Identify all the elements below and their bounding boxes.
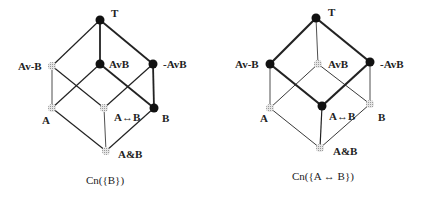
node-a-or-not-b <box>48 62 56 70</box>
node-a-or-b <box>96 60 105 69</box>
label-a-or-b: AvB <box>328 58 349 70</box>
node-a <box>266 104 274 112</box>
label-not-a-or-b: -AvB <box>163 58 187 70</box>
label-a-or-not-b: Av-B <box>18 60 42 72</box>
node-top <box>312 14 321 23</box>
label-a-or-not-b: Av-B <box>235 58 259 70</box>
node-b <box>366 100 374 108</box>
caption-cn-a-iff-b: Cn({A ↔ B}) <box>292 170 354 183</box>
caption-cn-b: Cn({B}) <box>86 174 124 187</box>
label-a-and-b: A&B <box>118 148 143 160</box>
node-a-or-b <box>314 60 322 68</box>
node-not-a-or-b <box>149 60 158 69</box>
node-a-iff-b <box>100 104 108 112</box>
node-not-a-or-b <box>366 58 375 67</box>
label-a: A <box>42 114 50 126</box>
lattice-diagrams: T Av-B AvB -AvB A A↔B B A&B Cn({B}) <box>0 0 421 200</box>
label-not-a-or-b: -AvB <box>380 58 404 70</box>
label-top: T <box>111 7 119 19</box>
node-a-iff-b <box>318 102 327 111</box>
node-a-or-not-b <box>266 60 275 69</box>
label-a-and-b: A&B <box>333 145 358 157</box>
label-a-or-b: AvB <box>109 58 130 70</box>
label-top: T <box>328 6 336 18</box>
node-a-and-b <box>316 144 324 152</box>
label-a-iff-b: A↔B <box>329 110 356 122</box>
label-a-iff-b: A↔B <box>114 111 141 123</box>
label-b: B <box>378 111 386 123</box>
node-a-and-b <box>102 147 110 155</box>
node-top <box>96 16 105 25</box>
node-a <box>48 104 56 112</box>
diagram-cn-b: T Av-B AvB -AvB A A↔B B A&B Cn({B}) <box>18 7 187 187</box>
label-a: A <box>260 112 268 124</box>
node-b <box>150 104 159 113</box>
diagram-cn-a-iff-b: T Av-B AvB -AvB A A↔B B A&B Cn({A ↔ B}) <box>235 6 404 183</box>
label-b: B <box>162 112 170 124</box>
